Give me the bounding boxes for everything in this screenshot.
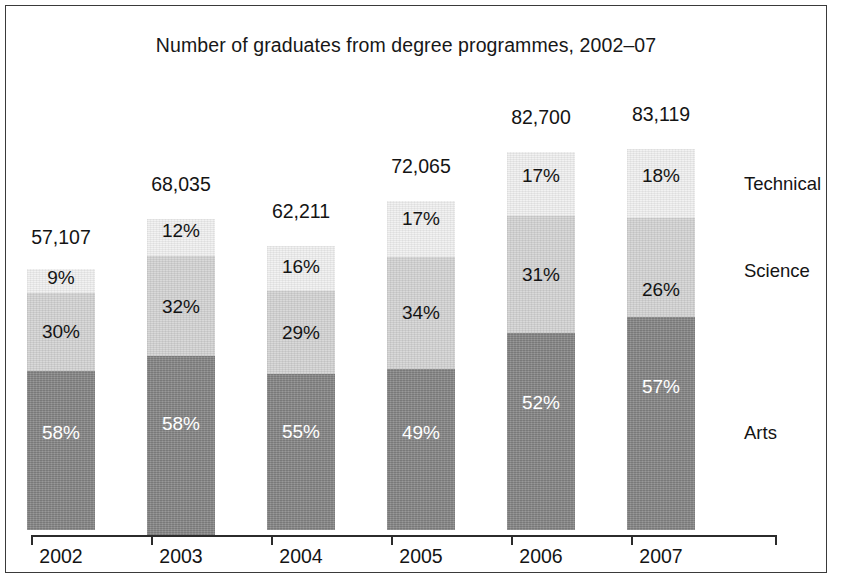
axis-tick xyxy=(151,535,153,545)
segment-value-label: 49% xyxy=(402,423,440,442)
axis-tick xyxy=(271,535,273,545)
segment-technical[interactable]: 18% xyxy=(627,149,695,218)
segment-value-label: 52% xyxy=(522,393,560,412)
bar-total-label: 82,700 xyxy=(484,108,598,128)
x-axis-line xyxy=(31,535,777,537)
segment-value-label: 58% xyxy=(162,414,200,433)
segment-value-label: 34% xyxy=(402,303,440,322)
axis-label-2002: 2002 xyxy=(4,545,118,568)
segment-value-label: 9% xyxy=(47,268,74,287)
segment-science[interactable]: 30% xyxy=(27,293,95,371)
segment-science[interactable]: 34% xyxy=(387,257,455,369)
axis-tick xyxy=(391,535,393,545)
stacked-bar[interactable]: 16% 29% 55% xyxy=(267,246,335,530)
segment-value-label: 26% xyxy=(642,280,680,299)
stacked-bar[interactable]: 18% 26% 57% xyxy=(627,149,695,530)
segment-science[interactable]: 29% xyxy=(267,291,335,373)
segment-value-label: 16% xyxy=(282,257,320,276)
segment-value-label: 18% xyxy=(642,166,680,185)
segment-technical[interactable]: 12% xyxy=(147,219,215,256)
segment-arts[interactable]: 57% xyxy=(627,317,695,530)
segment-value-label: 30% xyxy=(42,322,80,341)
axis-tick xyxy=(631,535,633,545)
segment-technical[interactable]: 9% xyxy=(27,269,95,293)
bar-total-label: 62,211 xyxy=(244,202,358,222)
legend-entry-arts[interactable]: Arts xyxy=(744,424,777,443)
segment-technical[interactable]: 16% xyxy=(267,246,335,291)
segment-value-label: 55% xyxy=(282,422,320,441)
bar-total-label: 57,107 xyxy=(4,228,118,248)
legend-entry-technical[interactable]: Technical xyxy=(744,175,821,194)
segment-technical[interactable]: 17% xyxy=(387,201,455,257)
axis-label-2007: 2007 xyxy=(604,545,718,568)
segment-arts[interactable]: 49% xyxy=(387,369,455,530)
segment-value-label: 29% xyxy=(282,323,320,342)
segment-arts[interactable]: 52% xyxy=(507,333,575,530)
stacked-bar[interactable]: 9% 30% 58% xyxy=(27,269,95,530)
axis-tick xyxy=(31,535,33,545)
stacked-bar[interactable]: 17% 34% 49% xyxy=(387,201,455,530)
segment-value-label: 57% xyxy=(642,377,680,396)
axis-tick xyxy=(511,535,513,545)
axis-label-2005: 2005 xyxy=(364,545,478,568)
segment-value-label: 12% xyxy=(162,221,200,240)
segment-arts[interactable]: 55% xyxy=(267,374,335,530)
segment-science[interactable]: 32% xyxy=(147,256,215,356)
bar-total-label: 68,035 xyxy=(124,175,238,195)
stacked-bar[interactable]: 12% 32% 58% xyxy=(147,219,215,530)
axis-label-2004: 2004 xyxy=(244,545,358,568)
segment-value-label: 31% xyxy=(522,265,560,284)
segment-value-label: 58% xyxy=(42,423,80,442)
axis-label-2003: 2003 xyxy=(124,545,238,568)
stacked-bar[interactable]: 17% 31% 52% xyxy=(507,152,575,530)
bar-total-label: 83,119 xyxy=(604,105,718,125)
segment-value-label: 17% xyxy=(522,166,560,185)
bar-total-label: 72,065 xyxy=(364,157,478,177)
stacked-bar-plot-area: 57,107 9% 30% 58% 68,035 12% xyxy=(6,6,826,572)
segment-science[interactable]: 26% xyxy=(627,218,695,317)
segment-technical[interactable]: 17% xyxy=(507,152,575,216)
chart-figure-frame: Number of graduates from degree programm… xyxy=(5,5,827,573)
axis-tick xyxy=(775,535,777,545)
axis-label-2006: 2006 xyxy=(484,545,598,568)
segment-value-label: 17% xyxy=(402,209,440,228)
segment-science[interactable]: 31% xyxy=(507,216,575,333)
segment-value-label: 32% xyxy=(162,297,200,316)
segment-arts[interactable]: 58% xyxy=(27,371,95,530)
legend-entry-science[interactable]: Science xyxy=(744,262,810,281)
segment-arts[interactable]: 58% xyxy=(147,356,215,536)
